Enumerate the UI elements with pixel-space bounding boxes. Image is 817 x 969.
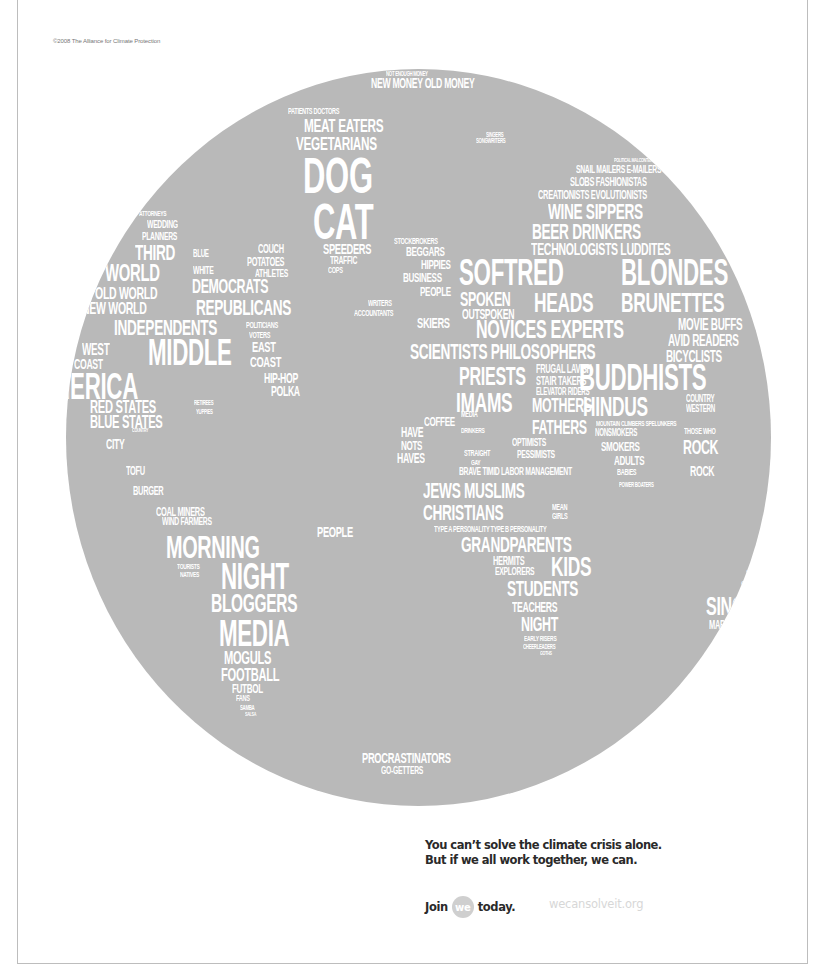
globe-word: HEADS: [534, 289, 630, 317]
globe-word: COPS: [328, 266, 352, 275]
globe-word: BLUE: [193, 249, 218, 259]
today-label: today.: [478, 900, 515, 914]
globe-word: STRAIGHT: [464, 449, 506, 458]
globe-word: WORLD: [105, 261, 193, 285]
globe-word: WRITERS: [368, 299, 406, 308]
globe-word: BURGER: [133, 485, 182, 497]
tagline-line-2: But if we all work together, we can.: [425, 853, 662, 868]
globe-word: EAST: [252, 339, 290, 354]
globe-word: POWER BOATERS: [619, 481, 675, 488]
globe-word: BABIES: [617, 468, 648, 477]
globe-word: NONSMOKERS: [595, 428, 663, 438]
globe-word: DRIVERS: [766, 354, 771, 367]
globe-word: OPTIMISTS: [512, 437, 567, 448]
globe-word: JEWS MUSLIMS: [423, 480, 587, 502]
globe-word: DRINKERS: [461, 427, 499, 435]
globe-word: REPUBLICANS: [196, 297, 349, 319]
globe-word: CHEERLEADERS: [523, 643, 575, 650]
globe-word: WIND FARMERS: [162, 516, 242, 527]
globe-word: POLITICIANS: [246, 321, 298, 330]
globe-word: HAVES: [397, 451, 442, 465]
globe-word: YUPPIES: [196, 408, 223, 415]
join-label: Join: [425, 900, 448, 914]
globe-word: SLOBS FASHIONISTAS: [570, 176, 693, 188]
globe-word: MEDIA: [219, 616, 333, 652]
globe-word: EARLY RISERS: [524, 635, 576, 643]
globe-word: SOFTRED: [459, 255, 628, 291]
tagline: You can’t solve the climate crisis alone…: [425, 838, 662, 867]
globe-word: WEDDING: [147, 219, 197, 230]
globe-word: CITY: [106, 437, 136, 451]
globe-word: THOSE WHO: [684, 427, 735, 436]
join-cta: Join we today.: [425, 896, 515, 918]
globe-word: BLONDES: [621, 255, 771, 291]
globe-word: SOCIALISTS: [746, 569, 771, 578]
globe-word: NIGHT: [521, 614, 581, 634]
globe-word: NATIVES: [180, 571, 211, 579]
globe-word: SALSA: [245, 711, 263, 717]
globe-word: SKIERS: [417, 315, 470, 330]
globe-word: ROCK: [690, 464, 729, 478]
globe-word: SINGLE: [706, 593, 771, 619]
globe-word: WESTERN: [686, 404, 733, 414]
tagline-line-1: You can’t solve the climate crisis alone…: [425, 838, 662, 853]
globe-word: BUSINESS: [403, 271, 465, 284]
globe-word: TOFU: [126, 465, 156, 477]
globe-word: PESSIMISTS: [517, 449, 578, 460]
globe-word: RETIREES: [194, 399, 225, 406]
globe-word: PROCRASTINATORS: [362, 750, 505, 765]
globe-word: DOERS: [715, 640, 752, 651]
globe-word: PEOPLE: [317, 524, 375, 539]
globe-word: MOVIE BUFFS: [678, 317, 771, 333]
website-link[interactable]: wecansolveit.org: [549, 897, 643, 911]
globe-word: COUNTRY: [132, 427, 158, 433]
globe-word: SAMBA: [240, 704, 263, 711]
globe-word: GOTHS: [540, 650, 559, 656]
word-globe: NOT ENOUGH MONEYNEW MONEY OLD MONEYPATIE…: [66, 69, 771, 806]
globe-word: GIRLS: [552, 512, 577, 521]
globe-word: STUDENTS: [507, 578, 622, 600]
globe-word: SMOKERS: [601, 440, 663, 453]
globe-word: HAVE: [401, 425, 437, 439]
globe-word: BRUNETTES: [621, 289, 771, 317]
copyright-text: ©2008 The Alliance for Climate Protectio…: [53, 38, 160, 44]
globe-word: MARRIED: [709, 619, 762, 631]
globe-word: BRAVE TIMID LABOR MANAGEMENT: [459, 466, 641, 477]
we-logo-icon: we: [452, 896, 474, 918]
globe-word: COUCH: [258, 243, 300, 255]
globe-word: NEW MONEY OLD MONEY: [371, 76, 538, 90]
globe-word: POLKA: [271, 384, 318, 398]
globe-word: TEACHERS: [512, 600, 585, 614]
globe-word: ATTORNEYS: [139, 210, 183, 218]
globe-word: SONGWRITERS: [476, 137, 523, 144]
globe-word: DEMOCRATS: [192, 276, 315, 296]
globe-word: CHRISTIANS: [423, 502, 552, 524]
globe-word: ACCOUNTANTS: [354, 309, 417, 318]
globe-word: SNAIL MAILERS E-MAILERS: [576, 164, 713, 175]
globe-word: COAST: [250, 354, 300, 369]
globe-word: FANS: [236, 694, 258, 703]
globe-word: GO-GETTERS: [381, 765, 449, 776]
globe-word: ROCK: [683, 437, 740, 457]
